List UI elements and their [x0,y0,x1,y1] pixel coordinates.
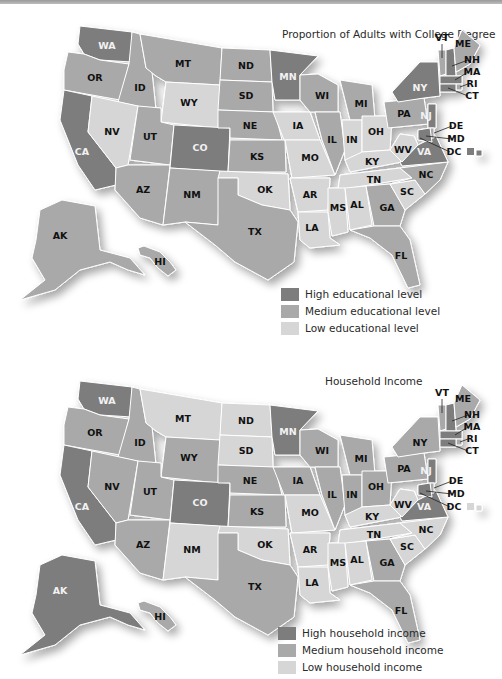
state-label-ks: KS [250,506,264,517]
state-label-mo: MO [301,507,319,518]
state-label-me: ME [455,38,471,49]
state-label-ar: AR [303,189,318,200]
state-label-sd: SD [239,90,254,101]
state-label-ma: MA [464,66,481,77]
state-label-mi: MI [355,98,368,109]
state-label-mi: MI [355,453,368,464]
state-label-mt: MT [175,58,191,69]
dc-swatch [467,503,474,510]
state-label-nh: NH [464,54,480,65]
state-label-wa: WA [98,395,116,406]
state-label-az: AZ [136,184,150,195]
state-label-md: MD [447,133,464,144]
state-label-nm: NM [183,189,200,200]
state-label-de: DE [449,120,463,131]
state-label-il: IL [327,489,337,500]
state-label-ny: NY [413,437,428,448]
legend-swatch-medium [281,305,299,318]
legend-swatch-low [278,661,296,674]
state-label-md: MD [447,488,464,499]
state-label-wa: WA [98,40,116,51]
state-label-or: OR [87,427,103,438]
state-label-in: IN [346,134,358,145]
state-label-me: ME [455,393,471,404]
state-label-ri: RI [467,78,478,89]
state-label-co: CO [192,497,207,508]
state-label-ia: IA [293,475,305,486]
state-fl [350,226,420,288]
state-label-ri: RI [467,433,478,444]
state-label-ga: GA [379,557,395,568]
map-household-income: Household Income WAORCAIDNVMTWYUTAZCONMN… [0,355,502,679]
state-label-ar: AR [303,544,318,555]
state-label-ok: OK [257,539,273,550]
state-label-tn: TN [367,529,381,540]
state-label-ne: NE [243,120,257,131]
state-dc [476,150,482,156]
state-label-nj: NJ [420,465,432,476]
legend-swatch-low [281,322,299,335]
state-label-ut: UT [143,131,158,142]
legend-item-high: High household income [278,625,443,641]
state-label-tx: TX [248,581,262,592]
state-az [115,520,170,580]
state-label-oh: OH [368,481,384,492]
state-label-sd: SD [239,445,254,456]
state-label-wv: WV [394,499,412,510]
state-label-nd: ND [238,60,254,71]
state-label-oh: OH [368,126,384,137]
legend-item-low: Low household income [278,659,443,675]
state-label-ga: GA [379,202,395,213]
state-label-ma: MA [464,421,481,432]
state-label-wy: WY [180,452,197,463]
state-label-sc: SC [400,541,414,552]
state-label-id: ID [134,437,146,448]
state-label-ky: KY [365,511,379,522]
state-label-hi: HI [154,256,166,267]
legend-swatch-high [278,627,296,640]
map-legend: High household income Medium household i… [278,625,443,676]
state-label-mn: MN [279,71,296,82]
state-label-ny: NY [413,82,428,93]
state-ma [440,431,462,439]
state-label-wi: WI [315,445,329,456]
state-label-sc: SC [400,186,414,197]
state-label-ne: NE [243,475,257,486]
state-label-ks: KS [250,151,264,162]
state-label-ms: MS [330,202,346,213]
state-dc [476,505,482,511]
state-label-il: IL [327,134,337,145]
state-label-mo: MO [301,152,319,163]
state-label-pa: PA [397,108,411,119]
state-label-ca: CA [75,501,90,512]
state-label-fl: FL [395,605,408,616]
state-label-nv: NV [104,126,120,137]
state-label-vt: VT [435,32,449,43]
state-label-ct: CT [465,90,479,101]
state-label-dc: DC [447,501,462,512]
state-label-de: DE [449,475,463,486]
state-label-wv: WV [394,144,412,155]
state-label-ok: OK [257,184,273,195]
state-label-mn: MN [279,426,296,437]
state-label-ut: UT [143,486,158,497]
state-label-id: ID [134,82,146,93]
legend-item-high: High educational level [281,286,440,302]
state-label-nv: NV [104,481,120,492]
map-legend: High educational level Medium educationa… [281,286,440,337]
state-label-or: OR [87,72,103,83]
state-label-dc: DC [447,146,462,157]
state-label-va: VA [417,146,432,157]
state-label-mt: MT [175,413,191,424]
state-label-az: AZ [136,539,150,550]
state-label-ak: AK [53,585,68,596]
state-label-nj: NJ [420,110,432,121]
us-choropleth-map: WAORCAIDNVMTWYUTAZCONMNDSDNEKSOKTXMNIAMO… [0,0,502,330]
state-ak [20,200,145,300]
state-label-ca: CA [75,146,90,157]
state-label-ct: CT [465,445,479,456]
state-label-nd: ND [238,415,254,426]
state-ak [20,555,145,655]
legend-swatch-high [281,288,299,301]
legend-swatch-medium [278,644,296,657]
